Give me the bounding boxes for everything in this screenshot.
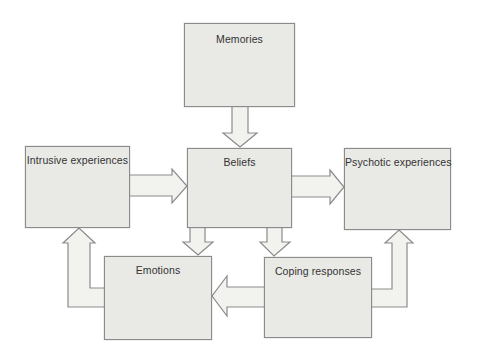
- node-coping-responses-label: Coping responses: [265, 265, 371, 277]
- node-emotions-label: Emotions: [105, 264, 211, 276]
- arrow-beliefs-to-psychotic: [289, 170, 344, 204]
- arrow-beliefs-to-emotions: [183, 225, 213, 255]
- node-intrusive-experiences-label: Intrusive experiences: [26, 154, 129, 166]
- node-intrusive-experiences: Intrusive experiences: [25, 146, 130, 228]
- node-beliefs-label: Beliefs: [188, 156, 291, 168]
- node-memories: Memories: [184, 23, 295, 107]
- flow-diagram: Memories Intrusive experiences Beliefs P…: [0, 0, 478, 361]
- arrow-memories-to-beliefs: [223, 104, 257, 147]
- arrow-intrusive-to-beliefs: [127, 169, 187, 203]
- node-coping-responses: Coping responses: [264, 257, 372, 338]
- arrow-coping-to-psychotic: [369, 230, 413, 307]
- arrow-beliefs-to-coping: [260, 225, 290, 256]
- node-memories-label: Memories: [185, 33, 294, 45]
- node-psychotic-experiences-label: Psychotic experiences: [345, 156, 450, 168]
- node-psychotic-experiences: Psychotic experiences: [344, 148, 451, 230]
- node-emotions: Emotions: [104, 256, 212, 340]
- arrow-emotions-to-intrusive: [63, 228, 107, 307]
- arrow-coping-to-emotions: [212, 276, 267, 316]
- node-beliefs: Beliefs: [187, 148, 292, 228]
